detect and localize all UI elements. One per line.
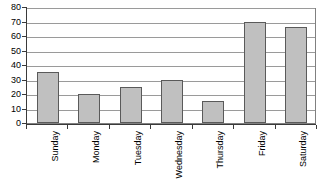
plot-area — [26, 8, 316, 124]
x-axis-tick — [316, 125, 317, 129]
gridline — [27, 66, 315, 67]
gridline — [27, 37, 315, 38]
y-axis-tick-label: 30 — [1, 76, 21, 85]
y-axis-tick — [22, 7, 27, 8]
x-axis-line — [26, 124, 316, 125]
x-axis-tick — [150, 125, 151, 129]
x-axis-tick — [109, 125, 110, 129]
bar — [285, 27, 307, 123]
x-axis-category-label: Saturday — [299, 131, 308, 167]
y-axis-tick-label: 80 — [1, 3, 21, 12]
gridline — [27, 8, 315, 9]
y-axis-tick-label: 20 — [1, 90, 21, 99]
y-axis-line — [26, 8, 27, 125]
y-axis-tick — [22, 109, 27, 110]
x-axis-category-label: Friday — [258, 131, 267, 156]
x-axis-category-label: Monday — [92, 131, 101, 163]
y-axis-tick — [22, 22, 27, 23]
y-axis-tick — [22, 65, 27, 66]
bar — [244, 22, 266, 124]
bar — [202, 101, 224, 123]
bar — [78, 94, 100, 123]
bar-chart: 01020304050607080 SundayMondayTuesdayWed… — [0, 0, 322, 193]
x-axis-tick — [275, 125, 276, 129]
y-axis-tick-label: 60 — [1, 32, 21, 41]
y-axis-tick-label: 50 — [1, 47, 21, 56]
x-axis-tick — [233, 125, 234, 129]
y-axis-tick-label: 10 — [1, 105, 21, 114]
y-axis-tick-label: 70 — [1, 18, 21, 27]
y-axis-labels: 01020304050607080 — [0, 0, 21, 193]
bar — [161, 80, 183, 124]
y-axis-tick — [22, 36, 27, 37]
x-axis-category-label: Thursday — [216, 131, 225, 169]
x-axis-tick — [192, 125, 193, 129]
y-axis-tick-label: 0 — [1, 119, 21, 128]
y-axis-tick — [22, 51, 27, 52]
y-axis-tick-label: 40 — [1, 61, 21, 70]
x-axis-tick — [26, 125, 27, 129]
y-axis-tick — [22, 94, 27, 95]
x-axis-category-label: Tuesday — [134, 131, 143, 165]
x-axis-category-label: Sunday — [51, 131, 60, 162]
gridline — [27, 23, 315, 24]
y-axis-tick — [22, 123, 27, 124]
gridline — [27, 52, 315, 53]
x-axis-tick — [67, 125, 68, 129]
x-axis-category-label: Wednesday — [175, 131, 184, 178]
y-axis-tick — [22, 80, 27, 81]
bar — [37, 72, 59, 123]
bar — [120, 87, 142, 123]
